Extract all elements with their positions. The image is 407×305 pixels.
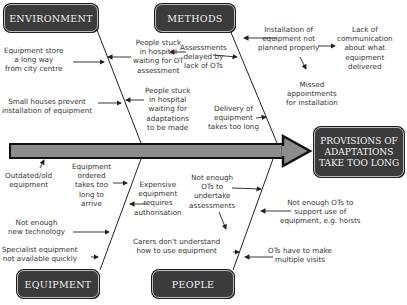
cause-installation-not-planned: Installation of equipment not planned pr… bbox=[258, 25, 319, 53]
category-methods: METHODS bbox=[155, 4, 235, 32]
cause-waiting-ot-assessment: People stuck in hospital waiting for OT … bbox=[133, 38, 184, 75]
cause-equipment-ordered-slow: Equipment ordered takes too long to arri… bbox=[72, 162, 111, 208]
cause-expensive-equipment: Expensive equipment requires authorisati… bbox=[134, 180, 182, 217]
cause-multiple-visits: OTs have to make multiple visits bbox=[268, 246, 332, 264]
effect-line-1: PROVISIONS OF bbox=[320, 136, 398, 147]
effect-line-3: TAKE TOO LONG bbox=[319, 158, 399, 169]
cause-carers-dont-understand: Carers don't understand how to use equip… bbox=[133, 237, 220, 255]
spine-arrow bbox=[10, 136, 310, 166]
cause-lack-of-communication: Lack of communication about what equipme… bbox=[337, 25, 393, 71]
cause-not-enough-ots-support: Not enough OTs to support use of equipme… bbox=[280, 198, 361, 226]
effect-box: PROVISIONS OF ADAPTATIONS TAKE TOO LONG bbox=[314, 127, 404, 177]
cause-assessments-delayed: Assessments delayed by lack of OTs bbox=[180, 43, 227, 71]
effect-line-2: ADAPTATIONS bbox=[325, 147, 394, 158]
cause-delivery-too-long: Delivery of equipment takes too long bbox=[208, 104, 259, 132]
category-equipment: EQUIPMENT bbox=[17, 270, 99, 298]
cause-equipment-store: Equipment store a long way from city cen… bbox=[4, 46, 63, 74]
cause-waiting-adaptations: People stuck in hospital waiting for ada… bbox=[145, 86, 190, 132]
cause-not-enough-ots-assessments: Not enough OTs to undertake assessments bbox=[189, 173, 235, 210]
category-people: PEOPLE bbox=[152, 270, 234, 298]
cause-missed-appointments: Missed appointments for installation bbox=[286, 80, 338, 108]
category-environment: ENVIRONMENT bbox=[4, 4, 98, 32]
cause-specialist-equipment: Specialist equipment not available quick… bbox=[2, 245, 78, 263]
cause-not-enough-technology: Not enough new technology bbox=[8, 218, 65, 236]
bone-people bbox=[233, 159, 273, 270]
cause-outdated-equipment: Outdated/old equipment bbox=[5, 171, 52, 189]
cause-small-houses: Small houses prevent installation of equ… bbox=[2, 97, 92, 115]
